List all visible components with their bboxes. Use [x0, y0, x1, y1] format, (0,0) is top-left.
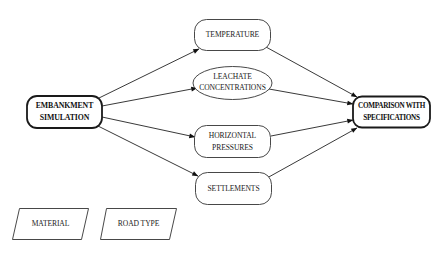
edge-horizontal-to-comparison — [271, 120, 353, 136]
node-temperature: TEMPERATURE — [195, 20, 271, 51]
embankment-label-line1: EMBANKMENT — [36, 101, 94, 110]
node-material: MATERIAL — [13, 209, 89, 240]
embankment-label-line2: SIMULATION — [40, 113, 90, 122]
edge-leachate-to-comparison — [269, 89, 353, 104]
node-settlements: SETTLEMENTS — [196, 173, 272, 205]
material-label: MATERIAL — [32, 219, 70, 228]
comparison-box — [353, 97, 430, 128]
settlements-label: SETTLEMENTS — [207, 184, 259, 193]
edge-embankment-to-settlements — [98, 126, 198, 176]
edges-outgoing — [98, 49, 199, 176]
comparison-label-line2: SPECIFICATIONS — [363, 114, 420, 122]
flowchart-canvas: EMBANKMENT SIMULATION TEMPERATURE LEACHA… — [0, 0, 446, 255]
node-comparison-with-specifications: COMPARISON WITH SPECIFICATIONS — [353, 97, 430, 128]
edge-temperature-to-comparison — [266, 47, 357, 97]
temperature-label: TEMPERATURE — [206, 30, 260, 39]
leachate-label-line1: LEACHATE — [213, 72, 252, 81]
horizontal-label-line2: PRESSURES — [212, 143, 253, 152]
road-type-label: ROAD TYPE — [118, 219, 160, 228]
node-road-type: ROAD TYPE — [101, 209, 177, 240]
node-embankment-simulation: EMBANKMENT SIMULATION — [27, 96, 102, 128]
node-horizontal-pressures: HORIZONTAL PRESSURES — [195, 126, 271, 158]
edge-embankment-to-leachate — [102, 88, 197, 106]
node-leachate-concentrations: LEACHATE CONCENTRATIONS — [193, 67, 272, 100]
leachate-label-line2: CONCENTRATIONS — [199, 83, 266, 92]
edge-settlements-to-comparison — [267, 128, 357, 178]
edges-incoming — [266, 47, 357, 178]
horizontal-label-line1: HORIZONTAL — [209, 131, 257, 140]
comparison-label-line1: COMPARISON WITH — [358, 102, 426, 110]
edge-embankment-to-horizontal — [102, 117, 195, 137]
